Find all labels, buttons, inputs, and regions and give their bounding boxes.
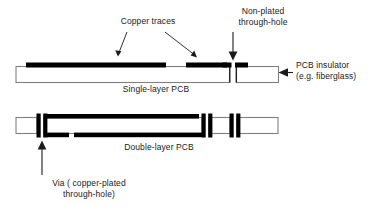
copper-trace-long: [26, 63, 166, 68]
label-insulator-line2: (e.g. fiberglass): [296, 71, 371, 82]
label-copper-traces: Copper traces: [106, 16, 190, 27]
via-right-wall-b: [236, 114, 240, 138]
double-layer-insulator-seg4: [237, 118, 278, 134]
via-right: [230, 114, 241, 138]
label-insulator-line1: PCB insulator: [296, 60, 371, 71]
label-non-plated-line2: through-hole: [220, 17, 306, 28]
label-pcb-insulator: PCB insulator (e.g. fiberglass): [296, 60, 371, 81]
copper-pad-right-of-hole: [235, 63, 248, 68]
caption-single-layer-pcb: Single-layer PCB: [106, 84, 206, 95]
copper-trace-bottom-stub: [47, 133, 69, 138]
caption-double-layer-pcb: Double-layer PCB: [108, 142, 210, 153]
label-via-line1: Via ( copper-plated: [30, 178, 148, 189]
double-layer-insulator-seg2: [44, 118, 202, 134]
via-left: [37, 114, 48, 138]
copper-trace-short: [186, 63, 227, 68]
pcb-cross-section-diagram: Copper traces Non-plated through-hole PC…: [0, 0, 371, 210]
via-middle-wall-b: [208, 114, 212, 138]
label-non-plated-through-hole: Non-plated through-hole: [220, 6, 306, 27]
leader-line-copper-right: [165, 32, 196, 56]
via-left-wall-b: [43, 114, 47, 138]
arrowhead-via: [38, 141, 47, 150]
via-left-wall-a: [37, 114, 41, 138]
arrowhead-non-plated: [229, 52, 238, 61]
single-layer-copper-features: [26, 63, 248, 68]
via-middle-wall-a: [202, 114, 206, 138]
copper-traces-arrowheads: [115, 50, 197, 57]
label-non-plated-line1: Non-plated: [220, 6, 306, 17]
via-right-wall-a: [230, 114, 234, 138]
arrowhead-insulator: [279, 68, 289, 77]
pcb-insulator-arrow: [279, 68, 294, 77]
label-via-callout: Via ( copper-plated through-hole): [30, 178, 148, 199]
via-callout-arrow: [38, 141, 47, 176]
single-layer-insulator-right: [237, 67, 279, 83]
label-via-line2: through-hole): [30, 189, 148, 200]
copper-trace-top-layer: [47, 114, 199, 119]
via-middle: [202, 114, 213, 138]
non-plated-arrow: [229, 32, 238, 61]
copper-trace-bottom-layer: [74, 133, 202, 138]
arrowhead-copper-left: [115, 50, 121, 56]
copper-traces-leaders: [118, 32, 196, 56]
single-layer-pcb-body: [16, 67, 279, 83]
arrowhead-copper-right: [191, 51, 197, 58]
double-layer-insulator-seg1: [16, 118, 37, 134]
single-layer-insulator-left: [16, 67, 230, 83]
copper-pad-left-of-hole: [223, 63, 232, 68]
